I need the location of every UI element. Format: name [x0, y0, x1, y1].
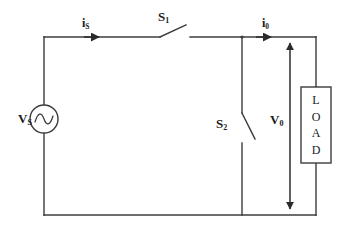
load-letter-2: A: [312, 127, 321, 139]
circuit-diagram-canvas: VS iS S1 S2 i0 V0 L O A D: [0, 0, 342, 230]
load-letter-3: D: [312, 144, 321, 156]
load-letter-0: L: [312, 94, 319, 106]
source-current-label: iS: [82, 17, 89, 29]
switch-2-blade[interactable]: [242, 113, 255, 139]
output-voltage-label: V0: [270, 113, 283, 126]
ac-source-symbol: [30, 105, 58, 133]
switch-2-label: S2: [216, 117, 227, 130]
source-label: VS: [18, 112, 32, 125]
switch-1-blade[interactable]: [160, 25, 186, 37]
junction-node: [240, 35, 243, 38]
load-label: L O A D: [301, 94, 331, 156]
output-current-label: i0: [262, 17, 269, 29]
switch-1-label: S1: [158, 10, 169, 23]
circuit-schematic: [0, 0, 342, 230]
load-letter-1: O: [312, 111, 321, 123]
